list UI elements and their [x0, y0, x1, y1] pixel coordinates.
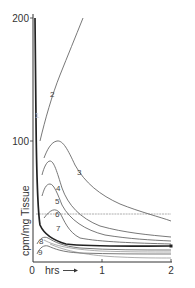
- curve-label-7: 7: [56, 224, 61, 233]
- curve-2: [40, 18, 83, 141]
- arrow-right-icon: [63, 269, 78, 273]
- y-tick-label-100: 100: [12, 136, 29, 147]
- curve-label-3: 3: [77, 168, 82, 177]
- curve-label-8: 8: [39, 237, 44, 246]
- curve-label-4: 4: [56, 184, 61, 193]
- x-tick-label-2: 2: [168, 265, 174, 276]
- x-tick-label-0: 0: [29, 265, 35, 276]
- y-axis-title: cpm/mg Tissue: [19, 185, 31, 256]
- x-tick-label-1: 1: [99, 265, 105, 276]
- curve-5: [42, 184, 171, 241]
- x-axis-title: hrs: [45, 264, 60, 276]
- curve-label-1: 1: [35, 111, 40, 120]
- chart: 200 100 0 1 2 hrs cpm/mg Tissue 1 2 3 4 …: [0, 0, 195, 288]
- curve-label-2: 2: [50, 90, 55, 99]
- curve-label-9: 9: [38, 248, 43, 257]
- y-tick-label-200: 200: [12, 13, 29, 24]
- curve-3: [44, 141, 171, 221]
- curve-label-5: 5: [55, 197, 60, 206]
- curve-1-endpoint: [170, 245, 173, 248]
- curve-label-6: 6: [55, 210, 60, 219]
- curve-4: [42, 161, 171, 237]
